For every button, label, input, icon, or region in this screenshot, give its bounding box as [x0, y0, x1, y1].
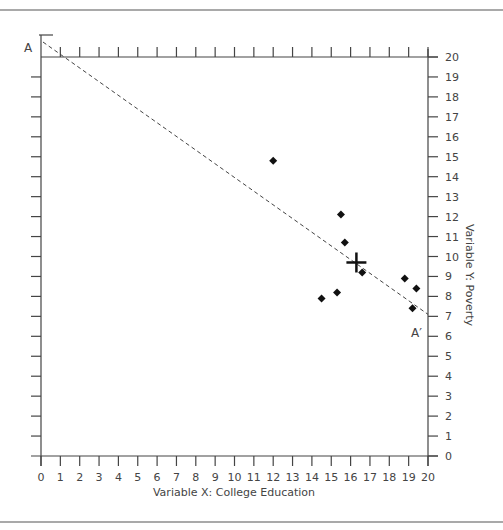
axes	[31, 35, 438, 466]
x-tick-label: 19	[402, 471, 416, 484]
x-tick-label: 6	[154, 471, 161, 484]
y-tick-label: 4	[445, 370, 452, 383]
dashed-regression-line	[43, 42, 428, 314]
regression-line	[43, 42, 428, 314]
diamond-marker	[412, 284, 420, 292]
y-tick-labels: 01234567891011121314151617181920	[445, 51, 459, 463]
x-tick-label: 1	[57, 471, 64, 484]
x-tick-label: 18	[382, 471, 396, 484]
x-tick-label: 4	[115, 471, 122, 484]
y-tick-label: 0	[445, 450, 452, 463]
x-tick-label: 5	[134, 471, 141, 484]
y-tick-label: 6	[445, 330, 452, 343]
x-tick-label: 10	[228, 471, 242, 484]
y-tick-label: 11	[445, 231, 459, 244]
x-tick-label: 14	[305, 471, 319, 484]
axis-ticks	[31, 47, 438, 466]
x-tick-label: 8	[192, 471, 199, 484]
y-axis-title: Variable Y: Poverty	[463, 224, 476, 327]
y-tick-label: 14	[445, 171, 459, 184]
x-tick-label: 20	[421, 471, 435, 484]
y-tick-label: 17	[445, 111, 459, 124]
diamond-marker	[269, 157, 277, 165]
y-tick-label: 9	[445, 270, 452, 283]
y-tick-label: 3	[445, 390, 452, 403]
y-tick-label: 20	[445, 51, 459, 64]
y-tick-label: 12	[445, 211, 459, 224]
x-tick-label: 2	[76, 471, 83, 484]
x-tick-label: 13	[286, 471, 300, 484]
mean-cross-marker	[346, 252, 366, 272]
diamond-marker	[333, 288, 341, 296]
y-tick-label: 7	[445, 310, 452, 323]
line-start-label: A	[24, 41, 33, 55]
x-tick-label: 16	[344, 471, 358, 484]
x-tick-label: 7	[173, 471, 180, 484]
y-tick-label: 18	[445, 91, 459, 104]
data-points	[269, 157, 420, 313]
y-tick-label: 5	[445, 350, 452, 363]
diamond-marker	[401, 274, 409, 282]
x-tick-label: 3	[96, 471, 103, 484]
y-tick-label: 19	[445, 71, 459, 84]
y-tick-label: 15	[445, 151, 459, 164]
x-tick-label: 0	[38, 471, 45, 484]
line-end-label: A′	[411, 326, 422, 340]
diamond-marker	[318, 294, 326, 302]
diamond-marker	[337, 211, 345, 219]
diamond-marker	[341, 239, 349, 247]
x-tick-label: 12	[266, 471, 280, 484]
y-tick-label: 8	[445, 290, 452, 303]
x-tick-labels: 01234567891011121314151617181920	[38, 471, 436, 484]
y-tick-label: 16	[445, 131, 459, 144]
x-tick-label: 11	[247, 471, 261, 484]
x-tick-label: 9	[212, 471, 219, 484]
y-tick-label: 13	[445, 191, 459, 204]
x-tick-label: 15	[324, 471, 338, 484]
y-tick-label: 10	[445, 251, 459, 264]
y-tick-label: 1	[445, 430, 452, 443]
y-tick-label: 2	[445, 410, 452, 423]
scatter-chart: 01234567891011121314151617181920 0123456…	[0, 0, 503, 530]
x-axis-title: Variable X: College Education	[153, 486, 315, 499]
x-tick-label: 17	[363, 471, 377, 484]
